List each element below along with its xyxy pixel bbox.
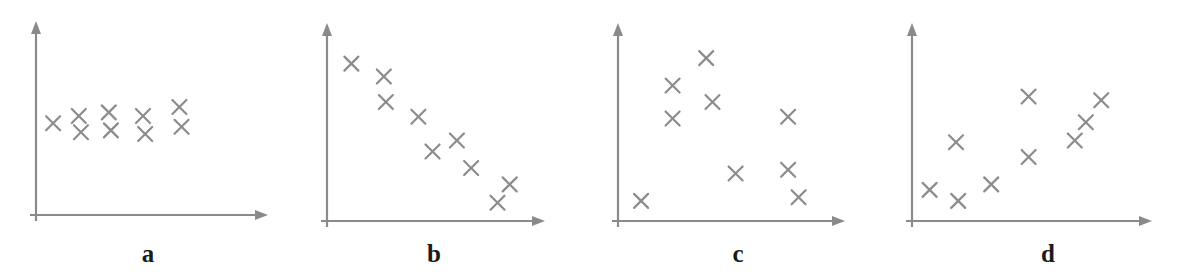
panel-b: b — [290, 0, 580, 276]
panel-a-plot — [0, 0, 290, 230]
panel-c-plot — [580, 0, 870, 230]
x-cross-marker — [634, 194, 648, 208]
panel-c-y-axis-arrow — [613, 23, 623, 36]
scatterplot-figure: a b c — [0, 0, 1177, 276]
x-cross-marker — [951, 194, 965, 208]
x-cross-marker — [503, 177, 517, 191]
panel-c-label: c — [718, 241, 758, 266]
x-cross-marker — [666, 79, 680, 93]
x-cross-marker — [138, 127, 152, 141]
panel-d-axes — [906, 23, 1152, 227]
x-cross-marker — [426, 144, 440, 158]
x-cross-marker — [72, 109, 86, 123]
x-cross-marker — [792, 190, 806, 204]
x-cross-marker — [172, 100, 186, 114]
panel-d-x-axis-arrow — [1139, 216, 1152, 226]
x-cross-marker — [1079, 115, 1093, 129]
x-cross-marker — [74, 125, 88, 139]
x-cross-marker — [949, 135, 963, 149]
panel-b-markers — [344, 57, 516, 210]
x-cross-marker — [1094, 93, 1108, 107]
x-cross-marker — [136, 109, 150, 123]
x-cross-marker — [923, 183, 937, 197]
panel-a-label: a — [128, 241, 168, 266]
panel-b-y-axis-arrow — [322, 23, 332, 36]
x-cross-marker — [491, 196, 505, 210]
x-cross-marker — [706, 95, 720, 109]
panel-b-axes — [321, 23, 545, 227]
x-cross-marker — [379, 95, 393, 109]
panel-c: c — [580, 0, 870, 276]
x-cross-marker — [666, 112, 680, 126]
x-cross-marker — [377, 69, 391, 83]
x-cross-marker — [175, 120, 189, 134]
x-cross-marker — [1022, 90, 1036, 104]
x-cross-marker — [46, 116, 60, 130]
x-cross-marker — [102, 105, 116, 119]
panel-a: a — [0, 0, 290, 276]
x-cross-marker — [450, 133, 464, 147]
x-cross-marker — [464, 161, 478, 175]
x-cross-marker — [104, 123, 118, 137]
x-cross-marker — [729, 166, 743, 180]
panel-b-label: b — [414, 241, 454, 266]
panel-c-x-axis-arrow — [832, 216, 845, 226]
panel-b-plot — [290, 0, 580, 230]
x-cross-marker — [781, 110, 795, 124]
x-cross-marker — [411, 110, 425, 124]
x-cross-marker — [984, 177, 998, 191]
panel-d-markers — [923, 90, 1109, 208]
x-cross-marker — [344, 57, 358, 71]
panel-d-y-axis-arrow — [907, 23, 917, 36]
panel-d: d — [870, 0, 1177, 276]
panel-a-markers — [46, 100, 188, 141]
panel-a-y-axis-arrow — [31, 21, 41, 34]
panel-a-x-axis-arrow — [255, 210, 268, 220]
panel-d-label: d — [1028, 241, 1068, 266]
panel-d-plot — [870, 0, 1177, 230]
x-cross-marker — [1068, 133, 1082, 147]
x-cross-marker — [1022, 150, 1036, 164]
panel-b-x-axis-arrow — [532, 216, 545, 226]
x-cross-marker — [699, 51, 713, 65]
x-cross-marker — [781, 163, 795, 177]
panel-c-markers — [634, 51, 806, 208]
